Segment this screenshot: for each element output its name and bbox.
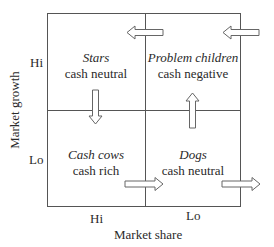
arrow-left-icon (127, 26, 163, 39)
arrow-right-icon (222, 178, 260, 191)
arrow-right-icon (125, 178, 163, 191)
arrow-down-icon (89, 90, 102, 124)
arrow-up-icon (186, 93, 199, 128)
arrow-left-icon (223, 26, 259, 39)
arrows-layer (0, 0, 274, 247)
